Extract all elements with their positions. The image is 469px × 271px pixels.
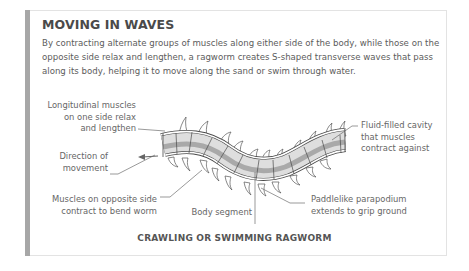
label-direction-of-movement: Direction of movement — [30, 151, 108, 174]
label-line: extends to grip ground — [311, 206, 441, 218]
label-paddlelike-parapodium: Paddlelike parapodium extends to grip gr… — [311, 194, 441, 217]
label-line: that muscles — [361, 132, 447, 144]
diagram-caption: CRAWLING OR SWIMMING RAGWORM — [0, 233, 469, 243]
direction-arrow-icon — [138, 154, 158, 160]
label-fluid-filled-cavity: Fluid-filled cavity that muscles contrac… — [361, 120, 447, 155]
label-line: on one side relax — [30, 112, 136, 124]
label-longitudinal-muscles: Longitudinal muscles on one side relax a… — [30, 100, 136, 135]
label-line: Direction of — [30, 151, 108, 163]
label-body-segment: Body segment — [180, 207, 252, 219]
label-line: Paddlelike parapodium — [311, 194, 441, 206]
label-muscles-opposite-side: Muscles on opposite side contract to ben… — [30, 194, 157, 217]
label-line: contract to bend worm — [30, 206, 157, 218]
label-line: contract against — [361, 143, 447, 155]
label-line: Muscles on opposite side — [30, 194, 157, 206]
label-line: movement — [30, 163, 108, 175]
label-line: Longitudinal muscles — [30, 100, 136, 112]
label-line: and lengthen — [30, 123, 136, 135]
label-line: Fluid-filled cavity — [361, 120, 447, 132]
